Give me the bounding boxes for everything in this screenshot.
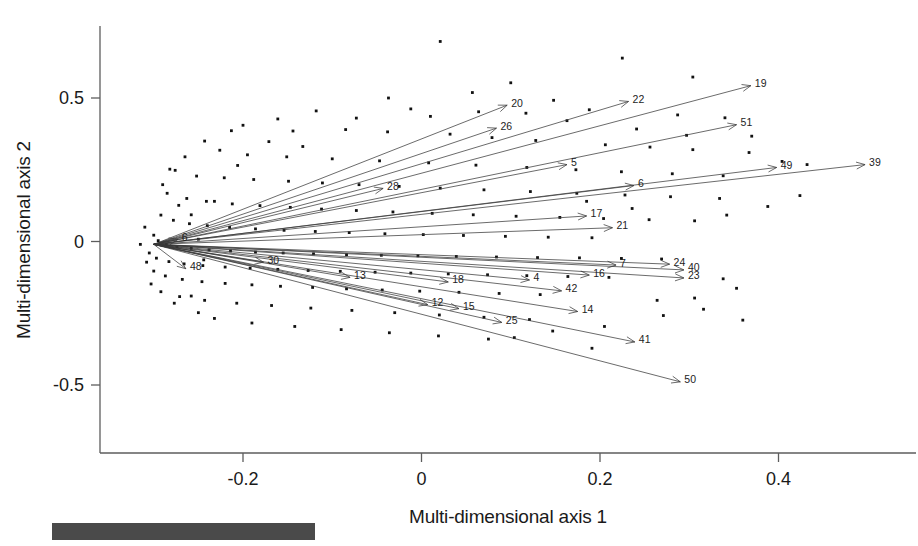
scatter-point [213,317,216,320]
scatter-point [766,205,769,208]
scatter-point [438,314,441,317]
scatter-point [223,176,226,179]
vector-arrow-shaft [154,244,616,265]
y-tick-label: 0.5 [59,88,84,108]
scatter-point [387,97,390,100]
scatter-point [750,135,753,138]
scatter-point [355,209,358,212]
scatter-point [188,222,191,225]
scatter-point [471,91,474,94]
scatter-point [178,295,181,298]
vector-arrow-shaft [154,125,737,245]
scatter-point [213,200,216,203]
scatter-point [429,115,432,118]
scatter-point [242,124,245,127]
scatter-point [252,178,255,181]
scatter-point [671,172,674,175]
vector-label: 22 [633,93,645,105]
vector-label: 49 [781,159,793,171]
scatter-point [155,257,158,260]
scatter-point [585,200,588,203]
scatter-point [718,197,721,200]
vector-label: 18 [452,273,464,285]
scatter-point [388,331,391,334]
vector-label: 16 [593,267,605,279]
y-axis-ticks: 0.50-0.5 [53,88,100,395]
scatter-point [578,256,581,259]
x-tick-label: 0.4 [766,469,791,489]
scatter-point [498,292,501,295]
scatter-point [504,235,507,238]
scatter-point [139,243,142,246]
y-axis-title: Multi-dimensional axis 2 [13,141,34,339]
vector-labels-layer: 1922512026394956281721624402371644218131… [182,77,881,385]
vector-label: 5 [571,156,577,168]
scatter-point [551,330,554,333]
scatter-point [254,227,257,230]
vector-arrow-shaft [154,244,562,290]
scatter-point [203,299,206,302]
scatter-point [190,213,193,216]
scatter-point [669,195,672,198]
scatter-point [173,302,176,305]
scatter-point [331,157,334,160]
scatter-point [656,299,659,302]
vector-label: 50 [684,373,696,385]
scatter-point [455,255,458,258]
x-axis-title: Multi-dimensional axis 1 [409,506,607,527]
scatter-point [293,325,296,328]
scatter-point [231,203,234,206]
scatter-point [168,260,171,263]
scatter-point [591,236,594,239]
scatter-point [246,153,249,156]
scatter-point [344,128,347,131]
scatter-point [157,239,160,242]
scatter-point [197,311,200,314]
scatter-point [164,275,167,278]
scatter-point [181,278,184,281]
vector-arrow-shaft [154,244,530,280]
scatter-point [148,252,151,255]
scatter-point [287,180,290,183]
scatter-point [358,183,361,186]
vector-label: 12 [432,296,444,308]
vector-label: 17 [591,207,603,219]
scatter-point [602,217,605,220]
scatter-point [340,328,343,331]
scatter-point [631,207,634,210]
scatter-point [515,215,518,218]
scatter-point [475,164,478,167]
scatter-point [279,285,282,288]
scatter-point [168,168,171,171]
scatter-point [462,234,465,237]
scatter-point [251,322,254,325]
scatter-point [534,139,537,142]
scatter-point [201,264,204,267]
scatter-point [190,295,193,298]
vector-label: 30 [268,254,280,266]
scatter-point [566,275,569,278]
vector-label: 6 [638,177,644,189]
scatter-point [588,108,591,111]
scatter-point [676,114,679,117]
vector-label: 24 [674,256,686,268]
scatter-point [339,270,342,273]
scatter-point [251,283,254,286]
scatter-point [477,110,480,113]
vector-arrow-shaft [154,86,751,245]
scatter-point [722,174,725,177]
scatter-point [230,129,233,132]
scatter-point [509,81,512,84]
scatter-point [285,155,288,158]
scatter-point [205,200,208,203]
x-axis-ticks: -0.200.20.4 [227,453,791,489]
scatter-point [449,133,452,136]
scatter-point [301,145,304,148]
scatter-point [309,307,312,310]
scatter-point [748,151,751,154]
vector-arrow-shaft [154,244,635,342]
scatter-point [621,57,624,60]
scatter-point [384,232,387,235]
scatter-point [218,149,221,152]
vector-label: 15 [463,300,475,312]
